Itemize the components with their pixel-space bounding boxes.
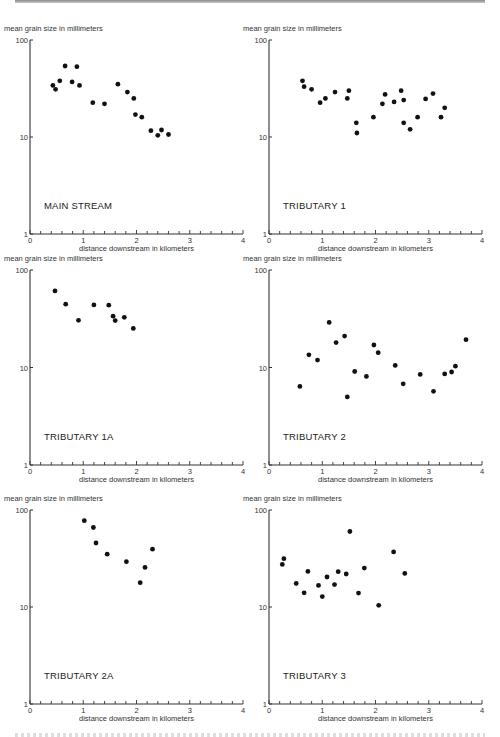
data-point-marker: [345, 96, 350, 101]
data-point-marker: [362, 566, 367, 571]
data-point-marker: [92, 303, 97, 308]
data-point-marker: [302, 590, 307, 595]
data-point-marker: [91, 525, 96, 530]
data-point-marker: [320, 594, 325, 599]
data-point-marker: [111, 314, 116, 319]
data-point-marker: [131, 326, 136, 331]
data-point-marker: [315, 358, 320, 363]
y-tick-label: 100: [254, 266, 267, 275]
data-point-marker: [401, 381, 406, 386]
y-tick-label: 100: [15, 36, 28, 45]
plot-area: 11010001234: [250, 8, 500, 248]
top-rule: [15, 0, 485, 3]
data-point-marker: [442, 105, 447, 110]
data-point-marker: [149, 128, 154, 133]
scatter-panel-tributary-2: mean grain size in millimeters 110100012…: [250, 248, 500, 488]
y-tick-label: 100: [15, 506, 28, 515]
data-point-marker: [53, 87, 58, 92]
scatter-panel-tributary-1a: mean grain size in millimeters 110100012…: [0, 248, 250, 488]
data-point-marker: [294, 581, 299, 586]
scatter-panel-tributary-2a: mean grain size in millimeters 110100012…: [0, 488, 250, 728]
data-point-marker: [376, 350, 381, 355]
data-point-marker: [307, 352, 312, 357]
data-point-marker: [139, 115, 144, 120]
data-point-marker: [302, 84, 307, 89]
data-point-marker: [364, 374, 369, 379]
data-point-marker: [344, 572, 349, 577]
data-point-marker: [380, 101, 385, 106]
data-point-marker: [342, 334, 347, 339]
data-point-marker: [166, 132, 171, 137]
panel-title: TRIBUTARY 2A: [44, 670, 113, 681]
y-tick-label: 10: [259, 603, 267, 612]
data-point-marker: [102, 101, 107, 106]
data-point-marker: [352, 369, 357, 374]
data-point-marker: [354, 120, 359, 125]
data-point-marker: [399, 88, 404, 93]
plot-area: 11010001234: [0, 488, 250, 728]
data-point-marker: [155, 133, 160, 138]
data-point-marker: [393, 363, 398, 368]
data-point-marker: [383, 92, 388, 97]
data-point-marker: [376, 603, 381, 608]
caption-cutoff: [15, 733, 485, 737]
y-tick-label: 10: [259, 133, 267, 142]
data-point-marker: [57, 78, 62, 83]
data-point-marker: [355, 131, 360, 136]
panel-title: TRIBUTARY 1: [283, 200, 346, 211]
data-point-marker: [300, 78, 305, 83]
data-point-marker: [371, 115, 376, 120]
data-point-marker: [327, 320, 332, 325]
data-point-marker: [431, 389, 436, 394]
data-point-marker: [138, 580, 143, 585]
data-point-marker: [159, 128, 164, 133]
data-point-marker: [464, 337, 469, 342]
data-point-marker: [402, 571, 407, 576]
data-point-marker: [309, 87, 314, 92]
data-point-marker: [53, 289, 58, 294]
data-point-marker: [143, 565, 148, 570]
data-point-marker: [133, 112, 138, 117]
data-point-marker: [372, 343, 377, 348]
plot-area: 11010001234: [250, 488, 500, 728]
scatter-panel-tributary-1: mean grain size in millimeters 110100012…: [250, 8, 500, 248]
data-point-marker: [336, 569, 341, 574]
y-tick-label: 100: [254, 506, 267, 515]
data-point-marker: [63, 302, 68, 307]
data-point-marker: [76, 318, 81, 323]
data-point-marker: [280, 562, 285, 567]
y-tick-label: 100: [254, 36, 267, 45]
data-point-marker: [106, 303, 111, 308]
panel-title: TRIBUTARY 1A: [44, 431, 113, 442]
data-point-marker: [345, 395, 350, 400]
data-point-marker: [122, 315, 127, 320]
x-axis-label: distance downstream in kilometers: [269, 714, 482, 723]
data-point-marker: [392, 100, 397, 105]
data-point-marker: [418, 372, 423, 377]
data-point-marker: [449, 370, 454, 375]
panel-title: TRIBUTARY 3: [283, 670, 346, 681]
y-tick-label: 10: [20, 364, 28, 373]
panel-title: TRIBUTARY 2: [283, 431, 346, 442]
data-point-marker: [113, 318, 118, 323]
y-tick-label: 10: [259, 364, 267, 373]
data-point-marker: [77, 83, 82, 88]
data-point-marker: [401, 98, 406, 103]
data-point-marker: [124, 559, 129, 564]
y-tick-label: 10: [20, 133, 28, 142]
data-point-marker: [439, 115, 444, 120]
data-point-marker: [356, 591, 361, 596]
data-point-marker: [391, 550, 396, 555]
data-point-marker: [423, 97, 428, 102]
data-point-marker: [82, 518, 87, 523]
data-point-marker: [94, 541, 99, 546]
plot-area: 11010001234: [0, 8, 250, 248]
scatter-panel-main-stream: mean grain size in millimeters 110100012…: [0, 8, 250, 248]
plot-area: 11010001234: [250, 248, 500, 488]
data-point-marker: [116, 82, 121, 87]
data-point-marker: [453, 364, 458, 369]
data-point-marker: [431, 91, 436, 96]
data-point-marker: [408, 127, 413, 132]
data-point-marker: [442, 372, 447, 377]
data-point-marker: [51, 83, 56, 88]
